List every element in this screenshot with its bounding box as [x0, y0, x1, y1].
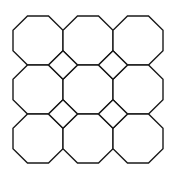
octagon-square-tiling-diagram — [0, 0, 172, 170]
octagon-group — [13, 16, 163, 163]
